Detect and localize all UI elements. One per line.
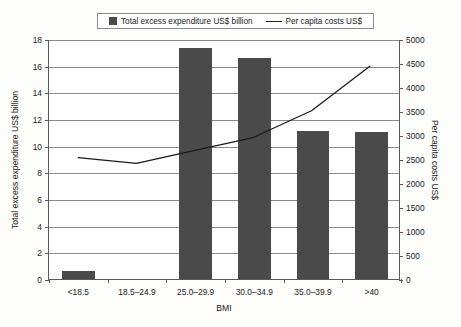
x-axis-tick xyxy=(401,279,402,283)
y-axis-left-tick xyxy=(45,67,49,68)
y-axis-right-tick-label: 3500 xyxy=(406,108,425,116)
y-axis-right-tick xyxy=(399,40,403,41)
legend-label-bars: Total excess expenditure US$ billion xyxy=(121,17,253,26)
line-swatch-icon xyxy=(266,21,282,22)
legend-entry-line: Per capita costs US$ xyxy=(266,17,362,26)
y-axis-left-tick-label: 10 xyxy=(33,143,42,151)
y-axis-right-tick xyxy=(399,160,403,161)
y-axis-left-tick-label: 4 xyxy=(37,223,42,231)
y-axis-left-tick xyxy=(45,40,49,41)
x-axis-category-label: >40 xyxy=(365,288,379,297)
y-axis-left-tick-label: 12 xyxy=(33,116,42,124)
y-axis-left-tick-label: 18 xyxy=(33,36,42,44)
y-axis-right-tick-label: 2000 xyxy=(406,180,425,188)
x-axis-title: BMI xyxy=(48,303,400,313)
bar-swatch-icon xyxy=(109,17,117,25)
x-axis-tick xyxy=(284,279,285,283)
x-axis-tick xyxy=(166,279,167,283)
y-axis-right-tick-label: 2500 xyxy=(406,156,425,164)
y-axis-left-tick xyxy=(45,227,49,228)
y-axis-right-tick-label: 500 xyxy=(406,252,420,260)
y-axis-left-tick-label: 0 xyxy=(37,276,42,284)
y-axis-left-tick-label: 8 xyxy=(37,169,42,177)
y-axis-left-tick-label: 2 xyxy=(37,249,42,257)
x-axis-tick xyxy=(49,279,50,283)
y-axis-right-tick xyxy=(399,208,403,209)
plot-area: 024681012141618 050010001500200025003000… xyxy=(48,40,400,280)
y-axis-right-tick-label: 1000 xyxy=(406,228,425,236)
y-axis-right-tick xyxy=(399,232,403,233)
line-series xyxy=(49,40,399,279)
y-axis-left-tick xyxy=(45,93,49,94)
legend-label-line: Per capita costs US$ xyxy=(286,17,362,26)
y-axis-right-tick xyxy=(399,256,403,257)
y-axis-left-tick-label: 16 xyxy=(33,63,42,71)
y-axis-left-tick xyxy=(45,147,49,148)
y-axis-left-tick xyxy=(45,173,49,174)
x-axis-tick xyxy=(225,279,226,283)
y-axis-right-tick xyxy=(399,64,403,65)
y-axis-right-tick xyxy=(399,88,403,89)
y-axis-left-tick xyxy=(45,200,49,201)
y-axis-right-tick xyxy=(399,112,403,113)
x-axis-category-label: 18.5–24.9 xyxy=(118,288,155,297)
x-axis-tick xyxy=(108,279,109,283)
y-axis-right-tick-label: 1500 xyxy=(406,204,425,212)
x-axis-category-label: 25.0–29.9 xyxy=(177,288,214,297)
y-axis-right-tick xyxy=(399,136,403,137)
y-axis-right-tick-label: 4000 xyxy=(406,84,425,92)
y-axis-right-title: Per capita costs US$ xyxy=(429,40,441,280)
x-axis-tick xyxy=(342,279,343,283)
y-axis-left-tick xyxy=(45,253,49,254)
y-axis-left-tick-label: 6 xyxy=(37,196,42,204)
y-axis-right-tick-label: 0 xyxy=(406,276,411,284)
legend-entry-bars: Total excess expenditure US$ billion xyxy=(109,17,253,26)
y-axis-right-tick-label: 4500 xyxy=(406,60,425,68)
x-axis-category-label: 30.0–34.9 xyxy=(236,288,273,297)
chart-figure: Total excess expenditure US$ billion Per… xyxy=(0,0,461,327)
y-axis-right-tick-label: 5000 xyxy=(406,36,425,44)
x-axis-category-label: 35.0–39.9 xyxy=(294,288,331,297)
per-capita-line-path xyxy=(78,66,370,163)
chart-legend: Total excess expenditure US$ billion Per… xyxy=(97,13,374,29)
x-axis-category-label: <18.5 xyxy=(68,288,89,297)
y-axis-left-tick xyxy=(45,120,49,121)
y-axis-right-tick xyxy=(399,184,403,185)
y-axis-left-tick-label: 14 xyxy=(33,89,42,97)
y-axis-right-tick-label: 3000 xyxy=(406,132,425,140)
y-axis-left-title: Total excess expenditure US$ billion xyxy=(9,40,21,280)
